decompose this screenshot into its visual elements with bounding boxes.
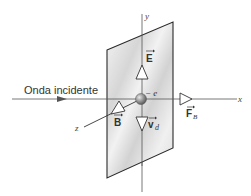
x-axis-label: x <box>237 94 242 104</box>
wave-plate-diagram: Onda incidente y x z − e E B v d F B <box>0 0 251 196</box>
svg-text:E: E <box>146 53 153 64</box>
y-axis-label: y <box>144 11 149 21</box>
incident-wave-arrow-icon <box>57 96 67 102</box>
svg-text:v: v <box>148 119 154 130</box>
svg-text:B: B <box>193 113 198 121</box>
electron-charge-label: − e <box>145 88 157 98</box>
z-axis-label: z <box>74 123 79 133</box>
svg-text:F: F <box>186 108 192 119</box>
incident-wave-label: Onda incidente <box>24 84 98 96</box>
fb-vector-label: F B <box>186 106 198 122</box>
fb-vector-arrow-icon <box>180 93 192 105</box>
svg-text:B: B <box>114 117 121 128</box>
